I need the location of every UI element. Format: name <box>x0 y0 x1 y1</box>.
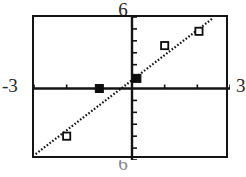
plot-canvas <box>34 17 230 160</box>
x-max-label: 3 <box>236 76 246 95</box>
trendline <box>36 19 212 154</box>
data-point-open <box>195 28 202 35</box>
trendline-path <box>36 19 212 154</box>
data-point-open <box>63 133 70 140</box>
x-min-label: -3 <box>2 76 18 95</box>
y-min-label-text: 6 <box>118 160 128 173</box>
data-point-filled <box>95 85 103 93</box>
plot-frame <box>32 15 228 158</box>
data-point-open <box>161 42 168 49</box>
y-min-label: 6 <box>0 160 246 177</box>
graph-figure: 6 -3 3 6 <box>0 0 246 177</box>
data-point-filled <box>133 74 141 82</box>
